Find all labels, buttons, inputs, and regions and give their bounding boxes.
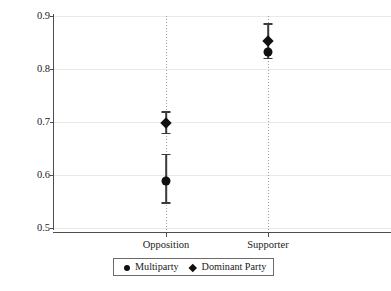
error-cap-low-opposition-dominant-party (162, 133, 171, 135)
error-cap-high-opposition-dominant-party (162, 111, 171, 113)
chart-figure: Pr(Voted in the Last Presidential Electi… (0, 0, 391, 291)
legend-item-dominant-party: Dominant Party (188, 261, 267, 273)
data-point-opposition-multiparty (162, 176, 171, 185)
y-tick-label-0.7: 0.7 (24, 117, 50, 127)
y-tick-label-0.9: 0.9 (24, 11, 50, 21)
gridline-0.6 (54, 175, 391, 176)
x-tick-label-opposition: Opposition (116, 239, 216, 251)
chart-legend: Multiparty Dominant Party (113, 258, 274, 276)
data-point-supporter-dominant-party (262, 36, 273, 47)
x-tick-label-supporter: Supporter (218, 239, 318, 251)
error-cap-high-supporter-dominant-party (264, 23, 273, 25)
y-tick-label-0.8: 0.8 (24, 64, 50, 74)
x-tick-mark-opposition (166, 233, 167, 237)
error-cap-low-opposition-multiparty (162, 202, 171, 204)
legend-item-multiparty: Multiparty (121, 261, 179, 273)
y-tick-label-0.5: 0.5 (24, 223, 50, 233)
error-cap-low-supporter-multiparty (264, 58, 273, 60)
gridline-0.7 (54, 122, 391, 123)
gridline-0.5 (54, 228, 391, 229)
x-tick-mark-supporter (268, 233, 269, 237)
data-point-opposition-dominant-party (160, 118, 171, 129)
legend-diamond-icon (188, 261, 199, 273)
y-tick-label-0.6: 0.6 (24, 170, 50, 180)
legend-label-dominant-party: Dominant Party (202, 261, 267, 273)
legend-circle-icon (121, 261, 132, 273)
gridline-0.8 (54, 69, 391, 70)
gridline-0.9 (54, 16, 391, 17)
error-cap-high-opposition-multiparty (162, 154, 171, 156)
legend-label-multiparty: Multiparty (135, 261, 179, 273)
y-axis-line (53, 14, 54, 230)
x-axis-line (53, 232, 391, 233)
data-point-supporter-multiparty (264, 48, 273, 57)
